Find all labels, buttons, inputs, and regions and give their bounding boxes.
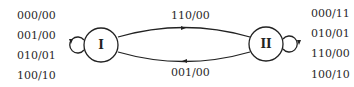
self-loop-I-label: 001/00	[17, 30, 56, 42]
self-loop-II-label: 100/10	[311, 69, 350, 81]
transition-label-I-to-II: 110/00	[171, 10, 210, 22]
transition-I-to-II	[118, 28, 250, 38]
arrowhead-II-to-I	[182, 59, 187, 63]
state-I-label: I	[98, 38, 104, 52]
transition-label-II-to-I: 001/00	[171, 67, 210, 79]
self-loop-II	[283, 36, 297, 52]
arrowhead-I-to-II	[181, 26, 186, 30]
self-loop-II-label: 110/00	[311, 48, 350, 60]
self-loop-I-label: 100/10	[17, 70, 56, 82]
self-loop-I-label: 000/00	[17, 10, 56, 22]
self-loop-II-label: 010/01	[311, 28, 350, 40]
self-loop-II-label: 000/11	[311, 8, 350, 20]
state-II-label: II	[260, 37, 272, 51]
self-loop-I-label: 010/01	[17, 50, 56, 62]
transition-II-to-I	[118, 52, 250, 62]
